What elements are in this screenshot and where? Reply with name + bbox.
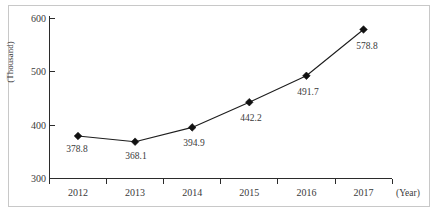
data-label-2015: 442.2 [240,113,262,123]
y-tick-label-600: 600 [31,13,46,24]
y-tick-label-500: 500 [31,66,46,77]
data-label-2012: 378.8 [66,144,88,154]
y-axis-title: (Thousand) [5,41,15,83]
data-label-2013: 368.1 [125,151,147,161]
data-point-2013[interactable] [131,138,139,146]
data-label-2014: 394.9 [183,138,205,148]
x-axis-tick-labels: 2012 2013 2014 2015 2016 2017 [68,187,374,198]
data-point-markers [74,26,367,146]
x-axis-unit-label: (Year) [396,188,420,199]
data-label-2016: 491.7 [297,87,319,97]
x-tick-label-2016: 2016 [296,187,316,198]
x-axis-ticks [50,179,393,184]
line-chart: 600 500 400 300 (Thousand) 2012 2013 201… [0,0,439,217]
data-label-2017: 578.8 [356,41,378,51]
y-axis-tick-labels: 600 500 400 300 [31,13,46,184]
data-point-2014[interactable] [188,124,196,132]
data-point-labels: 378.8 368.1 394.9 442.2 491.7 578.8 [66,41,378,161]
y-tick-label-400: 400 [31,120,46,131]
y-axis-ticks [50,19,55,179]
x-tick-label-2012: 2012 [68,187,88,198]
data-point-2012[interactable] [74,132,82,140]
x-tick-label-2014: 2014 [182,187,202,198]
data-point-2015[interactable] [246,98,254,106]
x-tick-label-2015: 2015 [239,187,259,198]
y-tick-label-300: 300 [31,173,46,184]
x-tick-label-2017: 2017 [354,187,374,198]
chart-figure: 600 500 400 300 (Thousand) 2012 2013 201… [0,0,439,217]
x-tick-label-2013: 2013 [125,187,145,198]
data-line-series [78,30,364,142]
